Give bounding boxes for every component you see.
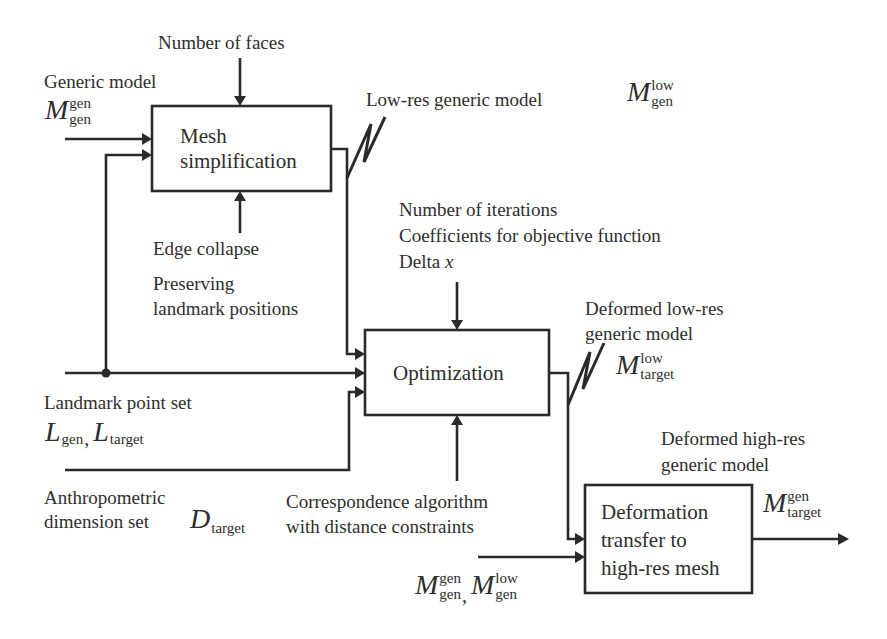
math-sup: low (651, 77, 674, 93)
math-sup: low (495, 570, 518, 586)
deformed-high-res-label-1: Deformed high-res (661, 428, 805, 450)
arrowhead (575, 533, 585, 545)
math-sup: low (640, 350, 674, 366)
deformed-high-res-label-2: generic model (661, 454, 769, 476)
mesh-simplification-label: Mesh simplification (180, 124, 297, 174)
math-sub: target (211, 520, 245, 536)
correspondence-label-1: Correspondence algorithm (286, 491, 488, 513)
arrowhead (575, 551, 585, 563)
deformed-low-res-label-1: Deformed low-res (585, 298, 724, 320)
math-sub: gen (439, 586, 461, 602)
math-sub: gen (69, 111, 91, 127)
optimization-label: Optimization (393, 361, 504, 386)
math-sub: target (640, 366, 674, 382)
block-label-line: Optimization (393, 361, 504, 386)
landmark-to-mesh-line (106, 155, 144, 373)
arrowhead (451, 415, 463, 425)
arrowhead (355, 367, 365, 379)
arrowhead (234, 96, 246, 106)
math-M-target-gen: Mgentarget (763, 488, 821, 520)
math-sub: gen (651, 93, 674, 109)
deformed-low-res-label-2: generic model (585, 323, 693, 345)
number-of-faces-label: Number of faces (158, 32, 285, 54)
delta-variable: x (445, 251, 453, 272)
delta-x-label: Delta x (399, 251, 453, 273)
math-symbol: M (763, 488, 786, 518)
deformation-transfer-label: Deformation transfer to high-res mesh (601, 498, 719, 582)
arrowhead (838, 533, 849, 545)
math-M-gen-gen: Mgengen (45, 95, 91, 127)
math-sub: gen (495, 586, 518, 602)
math-sup: gen (69, 95, 91, 111)
math-sub: target (110, 431, 144, 447)
coefficients-label: Coefficients for objective function (399, 225, 661, 247)
mesh-to-optimization-line (331, 149, 357, 354)
math-symbol: L (93, 417, 109, 447)
delta-text: Delta (399, 251, 440, 272)
math-sub: target (787, 504, 821, 520)
arrowhead (142, 133, 152, 145)
arrowhead (451, 320, 463, 330)
low-res-generic-model-label: Low-res generic model (366, 89, 542, 111)
block-label-line: Deformation (601, 498, 719, 526)
anthropometric-label-1: Anthropometric (44, 487, 165, 509)
break-symbol (568, 343, 604, 405)
generic-model-label: Generic model (44, 71, 156, 93)
math-sup: gen (787, 488, 821, 504)
preserving-label: Preserving (153, 273, 234, 295)
correspondence-label-2: with distance constraints (286, 516, 474, 538)
arrowhead (355, 386, 365, 398)
math-D-target: Dtarget (190, 504, 245, 536)
math-symbol: L (45, 417, 61, 447)
math-symbol: M (471, 570, 494, 600)
math-M-gen-low: Mlowgen (627, 77, 674, 109)
landmark-point-set-label: Landmark point set (44, 392, 192, 414)
landmark-positions-label: landmark positions (153, 298, 298, 320)
math-symbol: M (627, 77, 650, 107)
math-sup: gen (439, 570, 461, 586)
arrowhead (355, 348, 365, 360)
math-bottom-models: Mgengen,Mlowgen (415, 570, 518, 607)
math-symbol: D (190, 504, 210, 534)
math-comma: , (84, 427, 89, 450)
arrowhead (142, 149, 152, 161)
math-symbol: M (616, 350, 639, 380)
math-M-target-low: Mlowtarget (616, 350, 674, 382)
block-label-line: Mesh (180, 124, 297, 149)
math-symbol: M (415, 570, 438, 600)
diagram-canvas: Mesh simplification Optimization Deforma… (0, 0, 887, 639)
block-label-line: transfer to (601, 526, 719, 554)
anthropometric-label-2: dimension set (44, 511, 149, 533)
block-label-line: high-res mesh (601, 554, 719, 582)
break-symbol (347, 117, 385, 178)
math-symbol: M (45, 95, 68, 125)
math-comma: , (462, 584, 467, 607)
arrowhead (234, 191, 246, 201)
math-sub: gen (62, 431, 84, 447)
edge-collapse-label: Edge collapse (153, 238, 259, 260)
optimization-to-deformation-line (549, 373, 577, 539)
number-of-iterations-label: Number of iterations (399, 199, 557, 221)
block-label-line: simplification (180, 149, 297, 174)
math-L-gen-L-target: Lgen,Ltarget (45, 417, 144, 450)
